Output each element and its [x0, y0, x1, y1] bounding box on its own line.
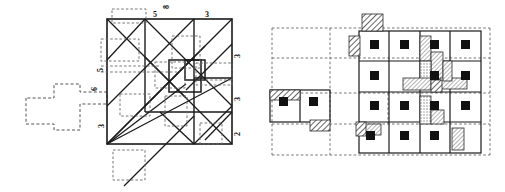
label-top-8: 8 — [162, 5, 171, 9]
figure-svg: 5 3 8 5 6 3 3 3 2 — [0, 0, 505, 192]
figure-canvas: 5 3 8 5 6 3 3 3 2 — [0, 0, 505, 192]
left-panel: 5 3 8 5 6 3 3 3 2 — [26, 5, 242, 186]
label-top-3: 3 — [205, 10, 209, 19]
label-top-5: 5 — [153, 10, 157, 19]
label-left-3: 3 — [97, 124, 106, 128]
label-right-3b: 3 — [233, 97, 242, 101]
label-left-5: 5 — [96, 68, 105, 72]
right-hatched-blocks — [270, 14, 467, 150]
label-right-3a: 3 — [233, 54, 242, 58]
right-panel — [270, 14, 490, 155]
label-left-6: 6 — [90, 87, 99, 91]
label-right-2: 2 — [233, 132, 242, 136]
left-dashed-construction — [101, 9, 232, 180]
